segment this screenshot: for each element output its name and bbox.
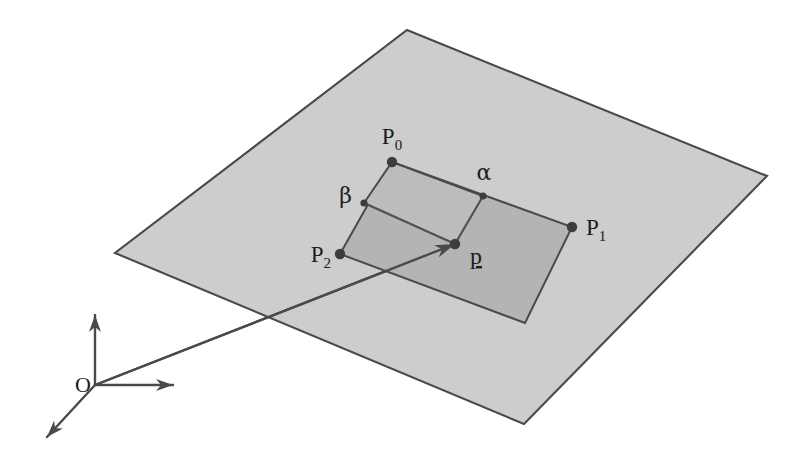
parameter-dot-alpha — [479, 192, 486, 199]
origin-label: O — [75, 372, 91, 397]
parameter-label-beta: β — [339, 183, 352, 208]
vertex-dot-P0 — [387, 157, 397, 167]
point-label-p: p — [470, 243, 482, 269]
vertex-dot-p — [450, 239, 460, 249]
vertex-dot-P1 — [567, 222, 577, 232]
origin-axes — [47, 315, 173, 437]
parameter-label-alpha: α — [477, 160, 492, 185]
figure-canvas: P0P1P2pαβ O — [0, 0, 809, 451]
geometry-figure: P0P1P2pαβ O — [0, 0, 809, 451]
vertex-dot-P2 — [335, 249, 345, 259]
parameter-dot-beta — [360, 199, 367, 206]
